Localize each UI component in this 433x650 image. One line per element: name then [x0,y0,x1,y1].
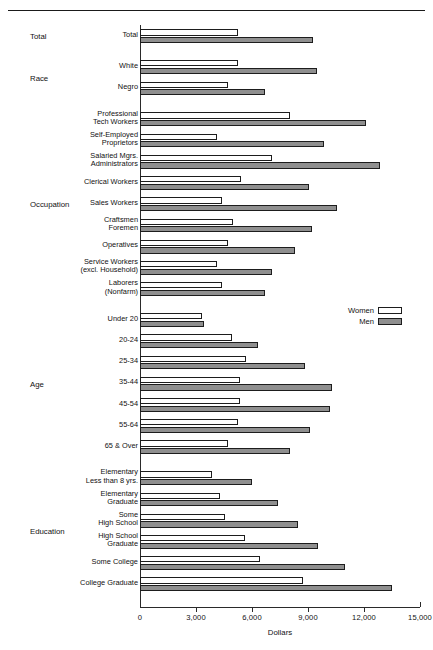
category-label: Elementary Less than 8 yrs. [10,468,138,485]
legend-label-men: Men [359,317,374,326]
bar-women [140,356,246,362]
bar-women [140,29,238,35]
bar-women [140,440,228,446]
bar-men [140,37,313,43]
bar-men [140,500,278,506]
group-label-race: Race [30,74,48,83]
x-tick-12000 [364,607,365,612]
bar-men [140,363,305,369]
category-label: Clerical Workers [10,178,138,186]
bar-women [140,282,222,288]
bar-men [140,120,366,126]
x-tick-label: 15,000 [408,613,432,622]
bar-women [140,419,238,425]
bar-men [140,68,317,74]
bar-women [140,261,217,267]
bar-women [140,313,202,319]
bar-men [140,479,252,485]
x-tick-3000 [196,607,197,612]
bar-men [140,406,330,412]
bar-women [140,134,217,140]
category-label: Some College [10,558,138,566]
bar-women [140,82,228,88]
bar-men [140,342,258,348]
category-label: Craftsmen Foremen [10,216,138,233]
x-tick-label: 6,000 [242,613,262,622]
category-label: Laborers (Nonfarm) [10,279,138,296]
bar-men [140,141,324,147]
x-tick-label: 9,000 [298,613,318,622]
legend-swatch-men [378,318,402,325]
bar-men [140,321,204,327]
category-label: 25-34 [10,357,138,365]
category-label: Salaried Mgrs. Administrators [10,152,138,169]
category-label: 45-54 [10,400,138,408]
category-label: Service Workers (excl. Household) [10,258,138,275]
group-label-total: Total [30,32,46,41]
category-label: 20-24 [10,336,138,344]
legend-item-women: Women [322,306,402,315]
bar-men [140,269,272,275]
x-tick-label: 12,000 [352,613,376,622]
bar-women [140,514,225,520]
bar-women [140,240,228,246]
bar-men [140,585,392,591]
category-label: Self-Employed Proprietors [10,131,138,148]
category-label: Some High School [10,511,138,528]
bar-women [140,556,260,562]
x-tick-15000 [420,602,421,607]
group-label-education: Education [30,527,65,536]
bar-women [140,60,238,66]
x-tick-label: 0 [138,613,142,622]
bar-men [140,384,332,390]
bar-men [140,448,290,454]
bar-men [140,564,345,570]
x-axis-line [140,607,420,608]
bar-men [140,543,318,549]
bar-men [140,247,295,253]
x-axis-title: Dollars [268,628,292,637]
bar-women [140,219,233,225]
group-label-occupation: Occupation [30,200,69,209]
category-label: College Graduate [10,579,138,587]
legend-label-women: Women [348,306,374,315]
bar-women [140,471,212,477]
category-label: Professional Tech Workers [10,110,138,127]
category-label: 65 & Over [10,442,138,450]
bar-women [140,493,220,499]
bar-men [140,89,265,95]
category-labels: TotalWhiteNegroProfessional Tech Workers… [4,0,138,580]
bar-women [140,197,222,203]
bar-women [140,176,241,182]
bar-women [140,535,245,541]
x-tick-9000 [308,607,309,612]
category-label: Negro [10,83,138,91]
bar-women [140,155,272,161]
bar-men [140,184,309,190]
category-label: Under 20 [10,315,138,323]
legend-swatch-women [378,307,402,314]
bar-women [140,112,290,118]
bar-men [140,162,380,168]
x-tick-label: 3,000 [186,613,206,622]
bar-women [140,398,240,404]
category-label: Elementary Graduate [10,490,138,507]
category-label: Operatives [10,241,138,249]
bar-men [140,226,312,232]
bar-men [140,205,337,211]
x-tick-6000 [252,607,253,612]
category-label: White [10,62,138,70]
legend: Women Men [322,306,402,328]
bar-women [140,577,303,583]
bar-men [140,427,310,433]
chart-root: 03,0006,0009,00012,00015,000 Dollars Tot… [0,0,433,650]
bar-women [140,334,232,340]
legend-item-men: Men [322,317,402,326]
group-label-age: Age [30,380,44,389]
bar-women [140,377,240,383]
bar-men [140,290,265,296]
category-label: 55-64 [10,421,138,429]
bar-men [140,521,298,527]
